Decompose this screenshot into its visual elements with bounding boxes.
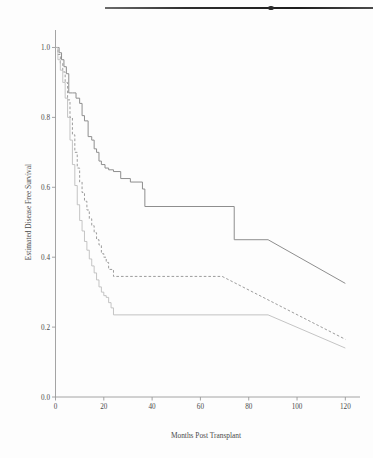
x-axis: 020406080100120: [54, 397, 360, 411]
middle-curve: [56, 47, 346, 339]
y-tick-label: 0.6: [41, 184, 50, 192]
y-tick-label: 1.0: [41, 44, 50, 52]
lower-curve: [56, 47, 346, 348]
x-tick-label: 120: [340, 403, 351, 411]
x-axis-title: Months Post Transplant: [171, 431, 242, 440]
x-tick-label: 40: [149, 403, 157, 411]
plot-series: [56, 47, 346, 348]
upper-curve: [56, 47, 346, 283]
survival-chart: 0.00.20.40.60.81.0 020406080100120 Month…: [0, 0, 373, 458]
chart-canvas: 0.00.20.40.60.81.0 020406080100120 Month…: [0, 0, 373, 458]
x-tick-label: 80: [245, 403, 253, 411]
figure-page: 0.00.20.40.60.81.0 020406080100120 Month…: [0, 0, 373, 458]
y-tick-label: 0.8: [41, 114, 50, 122]
y-tick-label: 0.0: [41, 394, 50, 402]
y-axis-title: Estimated Disease Free Survival: [24, 164, 33, 260]
x-tick-label: 60: [197, 403, 205, 411]
x-tick-label: 20: [100, 403, 108, 411]
y-axis: 0.00.20.40.60.81.0: [41, 30, 55, 402]
x-tick-label: 0: [54, 403, 58, 411]
y-tick-label: 0.4: [41, 254, 50, 262]
y-tick-label: 0.2: [41, 324, 50, 332]
x-tick-label: 100: [292, 403, 303, 411]
